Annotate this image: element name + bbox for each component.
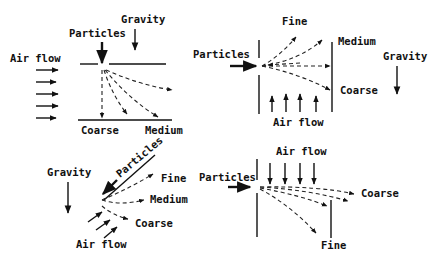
gravity-label: Gravity (47, 166, 92, 178)
medium-label: Medium (145, 124, 183, 136)
particles-label: Particles (199, 171, 256, 183)
coarse-label: Coarse (361, 187, 399, 199)
coarse-label: Coarse (340, 84, 378, 96)
particles-label: Particles (69, 27, 126, 39)
panel-top-left: Gravity Particles Air flow Coarse Medium (10, 13, 183, 136)
fine-label: Fine (321, 239, 346, 251)
air-flow-arrows-icon (88, 212, 117, 238)
gravity-label: Gravity (383, 50, 428, 62)
air-classification-diagram: Gravity Particles Air flow Coarse Medium… (0, 0, 440, 261)
air-flow-label: Air flow (10, 52, 61, 64)
medium-label: Medium (338, 35, 376, 47)
coarse-label: Coarse (81, 124, 119, 136)
particle-trajectories (102, 174, 153, 219)
particles-label: Particles (193, 48, 250, 60)
fine-label: Fine (161, 172, 186, 184)
particle-trajectories (260, 187, 354, 233)
fine-label: Fine (282, 15, 307, 27)
gravity-label: Gravity (121, 13, 166, 25)
air-flow-label: Air flow (276, 145, 327, 157)
air-flow-arrows-icon (36, 70, 58, 118)
air-flow-label: Air flow (273, 116, 324, 128)
particles-arrow-icon (103, 180, 117, 194)
panel-top-right: Fine Particles Medium Gravity Coarse Air… (193, 15, 428, 128)
air-flow-arrows-icon (272, 94, 316, 112)
particles-label: Particles (114, 134, 165, 180)
panel-bottom-right: Air flow Particles Coarse Fine (199, 145, 399, 251)
air-flow-label: Air flow (76, 238, 127, 250)
medium-label: Medium (150, 193, 188, 205)
air-flow-arrows-icon (270, 163, 314, 184)
particle-trajectories (102, 70, 172, 118)
particle-trajectories (262, 37, 330, 90)
coarse-label: Coarse (135, 217, 173, 229)
panel-bottom-left: Gravity Particles Fine Medium Coarse Air… (47, 134, 188, 250)
